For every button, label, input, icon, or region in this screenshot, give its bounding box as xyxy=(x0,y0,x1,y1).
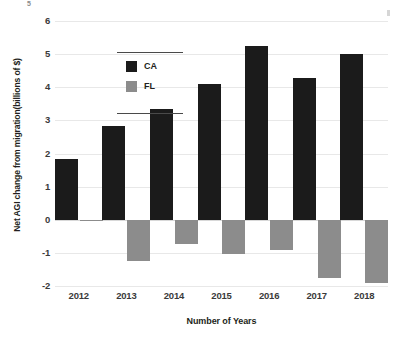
plot-area: CAFL xyxy=(55,21,388,286)
top-clipped-label: 5 xyxy=(27,0,31,7)
legend-swatch-icon-FL xyxy=(126,81,137,92)
bar-CA-2012[interactable] xyxy=(55,159,78,219)
y-tick-label: -1 xyxy=(24,248,50,258)
y-axis-tick-labels: 6543210-1-2 xyxy=(20,21,50,286)
x-axis-tick-labels: 2012201320142015201620172018 xyxy=(55,291,388,305)
bar-FL-2015[interactable] xyxy=(222,220,245,254)
x-tick-label-2013: 2013 xyxy=(103,291,151,305)
bar-FL-2016[interactable] xyxy=(270,220,293,250)
y-tick-label: 6 xyxy=(24,16,50,26)
legend-swatch-icon-CA xyxy=(126,61,137,72)
bar-FL-2012[interactable] xyxy=(80,220,103,222)
y-tick-label: 3 xyxy=(24,116,50,126)
bar-group-2018 xyxy=(340,21,388,286)
x-axis-title: Number of Years xyxy=(55,316,388,326)
bar-chart: 5 Net AGI change from migration(billions… xyxy=(0,0,398,339)
bar-CA-2015[interactable] xyxy=(198,84,221,220)
y-tick-label: 2 xyxy=(24,149,50,159)
bar-FL-2017[interactable] xyxy=(318,220,341,278)
x-tick-label-2016: 2016 xyxy=(245,291,293,305)
x-tick-label-2018: 2018 xyxy=(340,291,388,305)
x-tick-label-2012: 2012 xyxy=(55,291,103,305)
legend-entry-FL[interactable]: FL xyxy=(126,81,183,92)
legend-entry-CA[interactable]: CA xyxy=(126,61,183,72)
bar-group-2015 xyxy=(198,21,246,286)
gridline--2 xyxy=(55,286,388,287)
bar-group-2016 xyxy=(245,21,293,286)
legend-label: FL xyxy=(144,82,155,91)
x-tick-label-2017: 2017 xyxy=(293,291,341,305)
y-tick-label: 1 xyxy=(24,182,50,192)
y-tick-label: 0 xyxy=(24,215,50,225)
bar-CA-2017[interactable] xyxy=(293,78,316,220)
bar-group-2012 xyxy=(55,21,103,286)
y-tick-label: 5 xyxy=(24,49,50,59)
bar-FL-2018[interactable] xyxy=(365,220,388,283)
bar-CA-2014[interactable] xyxy=(150,109,173,220)
bar-CA-2016[interactable] xyxy=(245,46,268,220)
y-tick-label: -2 xyxy=(24,281,50,291)
legend: CAFL xyxy=(117,52,183,114)
bar-group-2017 xyxy=(293,21,341,286)
x-tick-label-2015: 2015 xyxy=(198,291,246,305)
bar-CA-2018[interactable] xyxy=(340,54,363,220)
bar-FL-2013[interactable] xyxy=(127,220,150,261)
bar-FL-2014[interactable] xyxy=(175,220,198,244)
bar-CA-2013[interactable] xyxy=(102,126,125,219)
legend-label: CA xyxy=(144,62,157,71)
bars-layer xyxy=(55,21,388,286)
y-tick-label: 4 xyxy=(24,83,50,93)
x-tick-label-2014: 2014 xyxy=(150,291,198,305)
corner-speck-icon xyxy=(387,10,390,16)
